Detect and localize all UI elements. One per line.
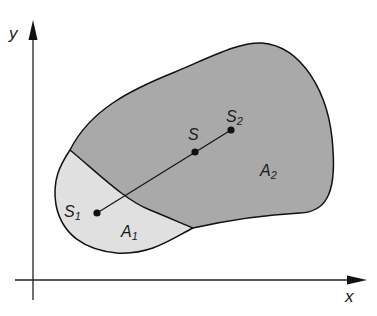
point-s: [191, 148, 198, 155]
y-axis: [29, 20, 38, 300]
centroid-diagram: y x S1 S S2 A2 A1: [0, 0, 377, 316]
x-axis-arrow-icon: [347, 276, 367, 285]
x-axis-label: x: [344, 287, 354, 306]
point-s2: [227, 126, 234, 133]
y-axis-label: y: [8, 24, 19, 43]
y-axis-arrow-icon: [29, 20, 38, 40]
label-s: S: [188, 126, 199, 143]
diagram-canvas: y x S1 S S2 A2 A1: [0, 0, 377, 316]
point-s1: [93, 209, 100, 216]
region-a2: [0, 0, 377, 316]
x-axis: [15, 276, 367, 285]
